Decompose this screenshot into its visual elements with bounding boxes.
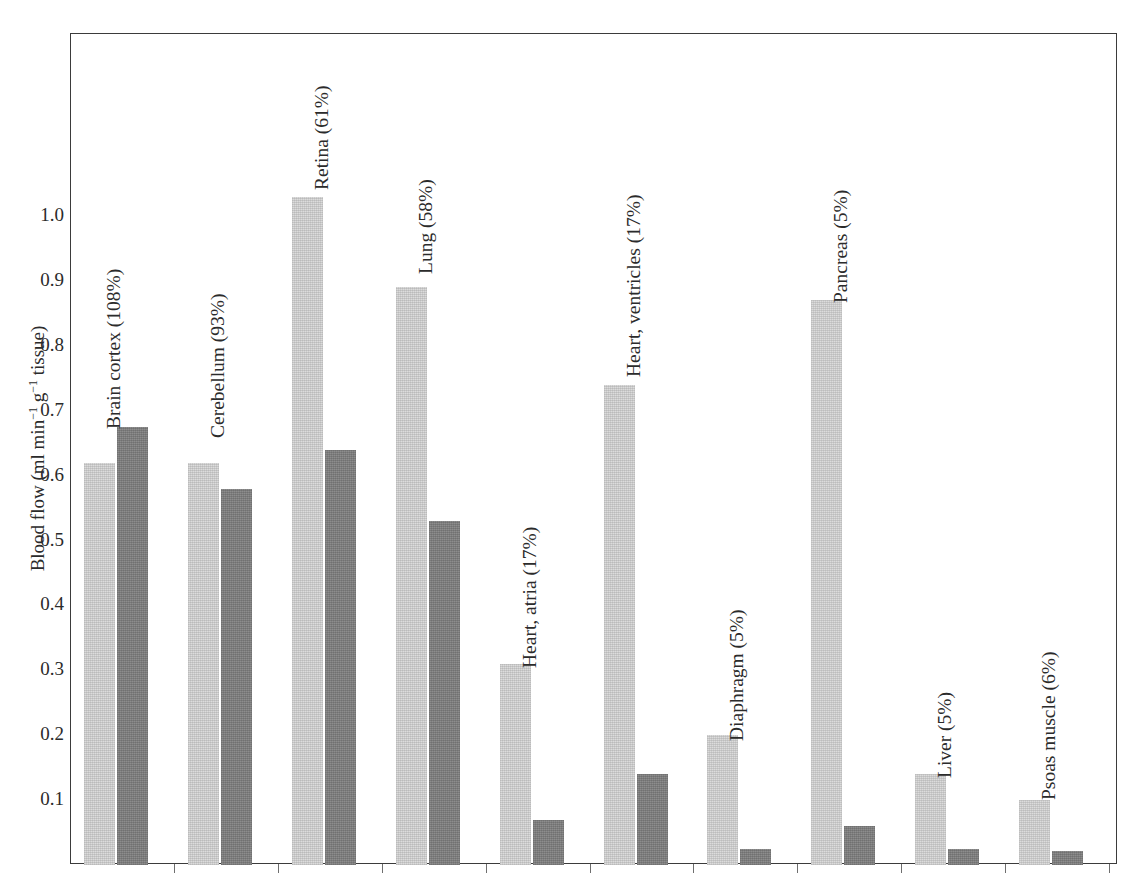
bar-series1-8 [915, 774, 946, 865]
bar-series2-2 [325, 450, 356, 865]
bar-series2-0 [117, 427, 148, 865]
x-axis-separator-10 [1109, 864, 1110, 873]
category-label-psoas_muscle: Psoas muscle (6%) [1039, 652, 1059, 800]
x-axis-separator-4 [486, 864, 487, 873]
y-axis-tick-label: 1.0 [40, 205, 64, 224]
x-axis-separator-3 [382, 864, 383, 873]
bar-series1-6 [707, 735, 738, 865]
y-axis-tick-label: 0.1 [40, 789, 64, 808]
category-label-heart_ventricles: Heart, ventricles (17%) [624, 195, 644, 377]
bar-series1-0 [84, 463, 115, 865]
x-axis-separator-1 [174, 864, 175, 873]
category-label-lung: Lung (58%) [416, 179, 436, 274]
y-axis-tick-label: 0.8 [40, 335, 64, 354]
bar-series2-5 [637, 774, 668, 865]
bar-series1-7 [811, 300, 842, 865]
x-axis-separator-2 [278, 864, 279, 873]
x-axis-separator-8 [901, 864, 902, 873]
category-label-pancreas: Pancreas (5%) [831, 190, 851, 303]
chart-page: Blood flow (ml min−1 g−1 tissue) 1.00.90… [0, 0, 1136, 879]
y-axis-tick-label: 0.5 [40, 530, 64, 549]
bar-series1-5 [604, 385, 635, 865]
bar-series1-3 [396, 287, 427, 865]
x-axis-separator-5 [590, 864, 591, 873]
bar-series1-1 [188, 463, 219, 865]
bar-series1-4 [500, 664, 531, 865]
bar-series2-8 [948, 849, 979, 865]
category-label-cerebellum: Cerebellum (93%) [208, 293, 228, 438]
y-axis-title-exponent-1: −1 [26, 407, 40, 420]
y-axis-tick-label: 0.2 [40, 724, 64, 743]
bar-series2-4 [533, 820, 564, 865]
x-axis-separator-6 [693, 864, 694, 873]
bar-series1-2 [292, 197, 323, 865]
y-axis-tick-label: 0.9 [40, 270, 64, 289]
category-label-diaphragm: Diaphragm (5%) [727, 609, 747, 741]
y-axis-tick-label: 0.6 [40, 465, 64, 484]
scan-top-text-strip [0, 0, 1136, 14]
bar-series2-3 [429, 521, 460, 865]
category-label-brain_cortex: Brain cortex (108%) [104, 269, 124, 429]
category-label-retina: Retina (61%) [312, 85, 332, 190]
category-label-liver: Liver (5%) [935, 692, 955, 778]
category-label-heart_atria: Heart, atria (17%) [520, 527, 540, 668]
bar-series2-7 [844, 826, 875, 865]
x-axis-separator-7 [797, 864, 798, 873]
plot-area [71, 34, 1118, 865]
bar-series2-6 [740, 849, 771, 865]
bar-series1-9 [1019, 800, 1050, 865]
y-axis-tick-label: 0.4 [40, 594, 64, 613]
y-axis-tick-label: 0.3 [40, 659, 64, 678]
plot-frame [70, 33, 1117, 864]
bar-series2-9 [1052, 851, 1083, 865]
y-axis-tick-label: 0.7 [40, 400, 64, 419]
bar-series2-1 [221, 489, 252, 865]
x-axis-separator-9 [1005, 864, 1006, 873]
y-axis-title-exponent-2: −1 [26, 380, 40, 393]
